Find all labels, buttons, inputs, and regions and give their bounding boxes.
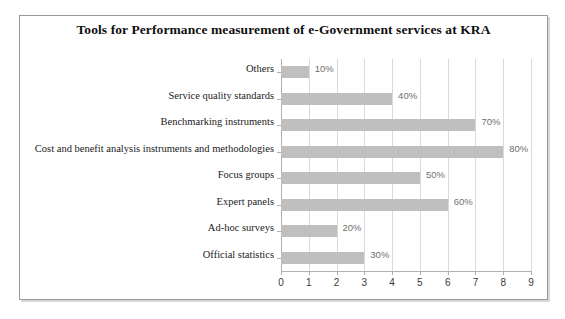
bar-value-label: 50%	[426, 169, 445, 180]
bar[interactable]	[281, 119, 475, 131]
category-label: Cost and benefit analysis instruments an…	[35, 143, 274, 154]
x-tick-0	[281, 271, 282, 275]
bar[interactable]	[281, 172, 420, 184]
bar[interactable]	[281, 66, 309, 78]
bar[interactable]	[281, 146, 503, 158]
x-tick-4	[392, 271, 393, 275]
y-tick	[277, 72, 281, 73]
bar-row: Expert panels60%	[281, 192, 531, 219]
bar-value-label: 70%	[481, 116, 500, 127]
x-tick-label: 7	[473, 277, 479, 288]
bar-value-label: 10%	[315, 63, 334, 74]
x-tick-label: 6	[445, 277, 451, 288]
bar-row: Others10%	[281, 59, 531, 86]
bar-row: Ad-hoc surveys20%	[281, 218, 531, 245]
y-tick	[277, 178, 281, 179]
x-tick-9	[531, 271, 532, 275]
y-tick	[277, 258, 281, 259]
x-tick-2	[337, 271, 338, 275]
y-tick	[277, 99, 281, 100]
bar[interactable]	[281, 252, 364, 264]
plot-area: Others10%Service quality standards40%Ben…	[281, 59, 531, 271]
x-tick-1	[309, 271, 310, 275]
x-tick-5	[420, 271, 421, 275]
x-tick-8	[503, 271, 504, 275]
chart-title: Tools for Performance measurement of e-G…	[20, 22, 547, 38]
category-label: Focus groups	[218, 169, 274, 180]
x-axis-line	[281, 271, 532, 272]
y-tick	[277, 125, 281, 126]
x-tick-label: 9	[528, 277, 534, 288]
x-tick-3	[364, 271, 365, 275]
category-label: Official statistics	[203, 249, 274, 260]
bar[interactable]	[281, 225, 337, 237]
bar[interactable]	[281, 199, 448, 211]
category-label: Others	[246, 63, 274, 74]
x-tick-label: 1	[306, 277, 312, 288]
bar-value-label: 40%	[398, 90, 417, 101]
y-tick	[277, 205, 281, 206]
bar-value-label: 30%	[370, 249, 389, 260]
y-tick	[277, 231, 281, 232]
bar-value-label: 20%	[343, 222, 362, 233]
bar-row: Benchmarking instruments70%	[281, 112, 531, 139]
chart-frame: Tools for Performance measurement of e-G…	[19, 15, 548, 300]
category-label: Expert panels	[217, 196, 274, 207]
x-tick-label: 0	[278, 277, 284, 288]
x-tick-label: 4	[389, 277, 395, 288]
x-tick-label: 5	[417, 277, 423, 288]
bar-row: Cost and benefit analysis instruments an…	[281, 139, 531, 166]
bar-row: Focus groups50%	[281, 165, 531, 192]
x-tick-6	[448, 271, 449, 275]
x-tick-label: 3	[362, 277, 368, 288]
bar-row: Official statistics30%	[281, 245, 531, 272]
category-label: Benchmarking instruments	[161, 116, 274, 127]
gridline-9	[531, 59, 532, 271]
category-label: Ad-hoc surveys	[208, 222, 274, 233]
category-label: Service quality standards	[168, 90, 274, 101]
x-tick-label: 8	[500, 277, 506, 288]
x-tick-label: 2	[334, 277, 340, 288]
bar-value-label: 60%	[454, 196, 473, 207]
bar-value-label: 80%	[509, 143, 528, 154]
bar[interactable]	[281, 93, 392, 105]
x-tick-7	[475, 271, 476, 275]
bar-row: Service quality standards40%	[281, 86, 531, 113]
y-tick	[277, 152, 281, 153]
